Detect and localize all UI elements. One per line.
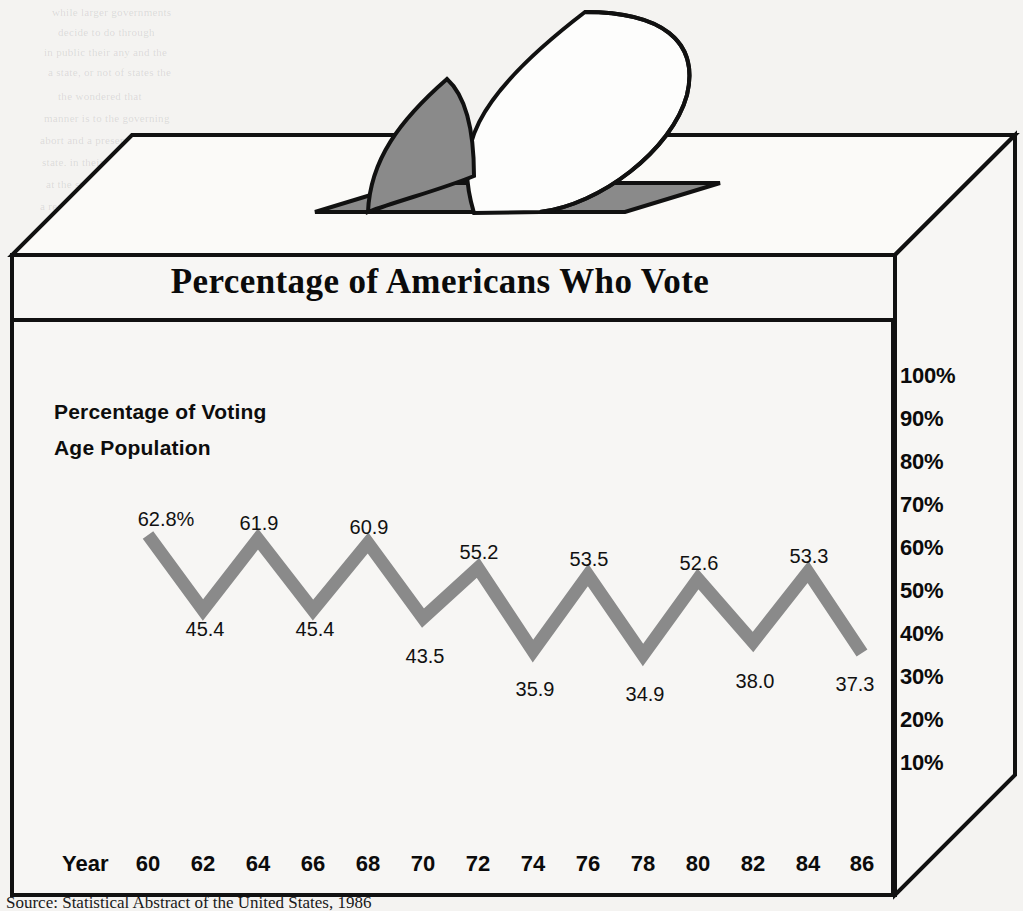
y-axis-caption-line2: Age Population	[54, 436, 211, 460]
box-front-face	[12, 255, 895, 895]
x-tick-label: 86	[850, 851, 874, 877]
x-tick-label: 80	[686, 851, 710, 877]
data-label: 45.4	[296, 618, 335, 641]
y-tick-label: 90%	[900, 406, 943, 432]
data-label: 53.3	[790, 545, 829, 568]
y-tick-label: 50%	[900, 578, 943, 604]
x-tick-label: 84	[796, 851, 820, 877]
data-label: 45.4	[186, 618, 225, 641]
data-label: 61.9	[240, 512, 279, 535]
data-label: 37.3	[836, 673, 875, 696]
x-tick-label: 72	[466, 851, 490, 877]
x-tick-label: 78	[631, 851, 655, 877]
y-tick-label: 40%	[900, 621, 943, 647]
data-label: 55.2	[460, 541, 499, 564]
y-tick-label: 20%	[900, 707, 943, 733]
x-axis-title: Year	[62, 851, 109, 877]
x-tick-label: 62	[191, 851, 215, 877]
data-label: 34.9	[626, 683, 665, 706]
y-tick-label: 100%	[900, 363, 955, 389]
x-tick-label: 60	[136, 851, 160, 877]
data-label: 38.0	[736, 670, 775, 693]
data-label: 62.8%	[138, 508, 195, 531]
x-tick-label: 66	[301, 851, 325, 877]
chart-title: Percentage of Americans Who Vote	[0, 262, 880, 302]
data-label: 43.5	[406, 645, 445, 668]
x-tick-label: 74	[521, 851, 545, 877]
x-tick-label: 64	[246, 851, 270, 877]
y-axis-caption-line1: Percentage of Voting	[54, 400, 266, 424]
y-tick-label: 30%	[900, 664, 943, 690]
x-tick-label: 82	[741, 851, 765, 877]
x-tick-label: 70	[411, 851, 435, 877]
data-label: 52.6	[680, 552, 719, 575]
y-tick-label: 60%	[900, 535, 943, 561]
x-tick-label: 76	[576, 851, 600, 877]
y-tick-label: 70%	[900, 492, 943, 518]
data-label: 60.9	[350, 516, 389, 539]
y-tick-label: 80%	[900, 449, 943, 475]
data-label: 35.9	[516, 678, 555, 701]
ballot-box-chart: while larger governments decide to do th…	[0, 0, 1023, 911]
x-tick-label: 68	[356, 851, 380, 877]
data-label: 53.5	[570, 548, 609, 571]
y-tick-label: 10%	[900, 750, 943, 776]
source-caption: Source: Statistical Abstract of the Unit…	[6, 893, 371, 911]
